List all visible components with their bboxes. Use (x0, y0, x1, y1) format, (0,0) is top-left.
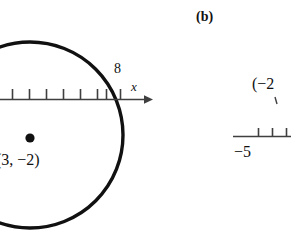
panel-b-ticks (259, 128, 287, 136)
x-axis-arrowhead (144, 95, 153, 104)
geometry-figure (0, 0, 291, 242)
x-tick-label-8: 8 (114, 62, 121, 76)
panel-b-point-marker (275, 97, 277, 104)
circle-shape (0, 42, 123, 228)
figure-canvas: (b) 8 x (3, −2) (−2 −5 (0, 0, 291, 242)
panel-b-point-label: (−2 (252, 76, 274, 92)
circle-center-coordinate-label: (3, −2) (0, 152, 40, 168)
panel-label-b: (b) (196, 10, 213, 24)
x-axis-ticks (13, 89, 121, 99)
panel-b-tick-label: −5 (234, 144, 251, 160)
panel-a-group (0, 42, 153, 228)
panel-b-group (233, 97, 291, 137)
center-dot-icon (25, 133, 34, 142)
x-axis-label: x (131, 80, 137, 93)
